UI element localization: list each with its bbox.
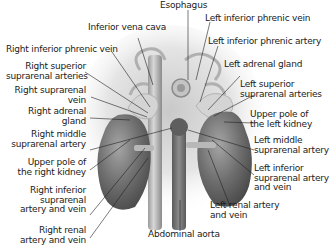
label-left-inferior-phrenic-vein: Left inferior phrenic vein bbox=[205, 14, 310, 24]
label-right-inferior-suprarenal-artery-vein: Right inferior suprarenal artery and vei… bbox=[6, 186, 86, 215]
label-right-middle-suprarenal-artery: Right middle suprarenal artery bbox=[6, 130, 86, 149]
label-right-suprarenal-vein: Right suprarenal vein bbox=[6, 86, 86, 105]
left-renal-vessels bbox=[186, 142, 216, 148]
label-right-adrenal-gland: Right adrenal gland bbox=[6, 107, 86, 126]
anatomy-diagram: Esophagus Inferior vena cava Right infer… bbox=[0, 0, 334, 247]
right-renal-vessels bbox=[134, 145, 154, 151]
label-right-inferior-phrenic-vein: Right inferior phrenic vein bbox=[6, 45, 118, 55]
label-abdominal-aorta: Abdominal aorta bbox=[148, 230, 220, 240]
label-left-superior-suprarenal-arteries: Left superior suprarenal arteries bbox=[240, 80, 322, 99]
label-inferior-vena-cava: Inferior vena cava bbox=[88, 23, 166, 33]
label-left-renal-artery-vein: Left renal artery and vein bbox=[210, 201, 279, 220]
label-right-renal-artery-vein: Right renal artery and vein bbox=[6, 226, 86, 245]
abdominal-aorta-shape bbox=[172, 122, 186, 230]
label-left-inferior-suprarenal-artery-vein: Left inferior suprarenal artery and vein bbox=[254, 164, 329, 193]
inferior-vena-cava-shape bbox=[148, 55, 162, 230]
label-left-middle-suprarenal-artery: Left middle suprarenal artery bbox=[254, 136, 329, 155]
label-left-adrenal-gland: Left adrenal gland bbox=[224, 60, 302, 70]
label-upper-pole-left-kidney: Upper pole of the left kidney bbox=[250, 110, 312, 129]
label-upper-pole-right-kidney: Upper pole of the right kidney bbox=[6, 158, 86, 177]
label-left-inferior-phrenic-artery: Left inferior phrenic artery bbox=[208, 37, 321, 47]
label-esophagus: Esophagus bbox=[160, 1, 207, 11]
label-right-superior-suprarenal-arteries: Right superior suprarenal arteries bbox=[6, 62, 86, 81]
